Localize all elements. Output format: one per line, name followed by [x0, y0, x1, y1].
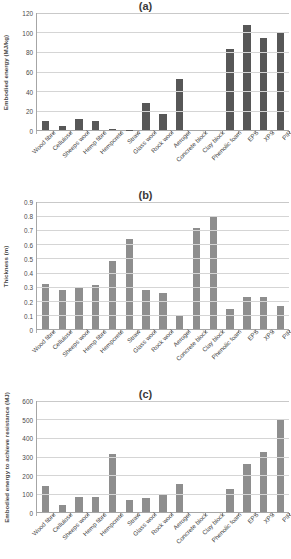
gridline [37, 401, 289, 402]
y-tick-label: 0 [29, 327, 33, 334]
bar-glass-wool[interactable] [142, 103, 149, 130]
bar-concrete-block[interactable] [193, 228, 200, 329]
bar-xps[interactable] [260, 297, 267, 329]
bar-rock-wool[interactable] [159, 495, 166, 512]
gridline [37, 419, 289, 420]
bar-hempcrete[interactable] [109, 261, 116, 329]
bar-hemp-fibre[interactable] [92, 497, 99, 512]
panel-c-yticks: 0100200300400500600 [13, 401, 35, 513]
bar-glass-wool[interactable] [142, 290, 149, 330]
panel-c-title: (c) [0, 388, 291, 401]
panel-a-plotarea [36, 13, 289, 131]
y-tick-label: 60 [26, 69, 33, 76]
panel-b-title: (b) [0, 189, 291, 202]
gridline [37, 202, 289, 203]
bar-sheeps-wool[interactable] [75, 119, 82, 130]
y-tick-label: 600 [22, 398, 33, 405]
y-tick-label: 80 [26, 49, 33, 56]
gridline [37, 52, 289, 53]
bar-pir[interactable] [277, 306, 284, 329]
y-tick-label: 0.4 [24, 270, 33, 277]
gridline [37, 438, 289, 439]
x-axis-label: PIR [280, 330, 291, 342]
bar-hemp-fibre[interactable] [92, 121, 99, 130]
bar-rock-wool[interactable] [159, 114, 166, 130]
bar-cell [54, 202, 71, 329]
bar-cell [121, 202, 138, 329]
y-tick-label: 200 [22, 472, 33, 479]
x-axis-label: EPS [245, 131, 259, 145]
bar-cell [87, 202, 104, 329]
y-tick-label: 400 [22, 435, 33, 442]
bar-cell [239, 202, 256, 329]
bar-aerogel[interactable] [176, 316, 183, 329]
bar-pir[interactable] [277, 32, 284, 130]
chart-panel-b: (b) Thickness (m) 00.10.20.30.40.50.60.7… [0, 189, 291, 388]
bar-phenolic-foam[interactable] [226, 309, 233, 329]
gridline [37, 91, 289, 92]
gridline [37, 301, 289, 302]
gridline [37, 216, 289, 217]
bar-phenolic-foam[interactable] [226, 49, 233, 130]
bar-wood-fibre[interactable] [42, 486, 49, 512]
bar-xps[interactable] [260, 452, 267, 512]
bar-cellulose[interactable] [59, 126, 66, 130]
bar-cell [171, 202, 188, 329]
bar-wood-fibre[interactable] [42, 121, 49, 130]
y-tick-label: 20 [26, 108, 33, 115]
bar-cell [104, 202, 121, 329]
panel-b-xlabels: Wood fibreCelluloseSheeps woolHemp fibre… [36, 330, 289, 388]
gridline [37, 230, 289, 231]
bar-eps[interactable] [243, 464, 250, 512]
bar-cell [205, 202, 222, 329]
y-tick-label: 100 [22, 491, 33, 498]
bar-cellulose[interactable] [59, 290, 66, 330]
panel-b-bars [37, 202, 289, 329]
gridline [37, 287, 289, 288]
x-axis-label: XPS [262, 513, 276, 527]
bar-glass-wool[interactable] [142, 498, 149, 512]
y-tick-label: 0.8 [24, 213, 33, 220]
y-tick-label: 0 [29, 510, 33, 517]
bar-pir[interactable] [277, 419, 284, 512]
bar-wood-fibre[interactable] [42, 284, 49, 329]
bar-phenolic-foam[interactable] [226, 489, 233, 512]
y-tick-label: 100 [22, 29, 33, 36]
bar-sheeps-wool[interactable] [75, 287, 82, 329]
gridline [37, 13, 289, 14]
bar-sheeps-wool[interactable] [75, 497, 82, 512]
gridline [37, 475, 289, 476]
gridline [37, 457, 289, 458]
y-tick-label: 0.3 [24, 284, 33, 291]
x-axis-label: PIR [280, 131, 291, 143]
bar-cell [71, 202, 88, 329]
panel-a-plot: Embodied energy (MJ/kg) 020406080100120 [0, 13, 291, 131]
panel-b-ylabel: Thickness (m) [0, 202, 13, 330]
bar-straw[interactable] [126, 500, 133, 512]
x-axis-label: EPS [245, 330, 259, 344]
bar-hempcrete[interactable] [109, 454, 116, 512]
bar-cell [255, 202, 272, 329]
y-tick-label: 120 [22, 10, 33, 17]
panel-b-yticks: 00.10.20.30.40.50.60.70.80.9 [13, 202, 35, 330]
bar-aerogel[interactable] [176, 484, 183, 512]
bar-eps[interactable] [243, 25, 250, 130]
x-axis-label: PIR [280, 513, 291, 525]
bar-hemp-fibre[interactable] [92, 285, 99, 329]
bar-aerogel[interactable] [176, 79, 183, 130]
bar-hempcrete[interactable] [109, 129, 116, 130]
gridline [37, 315, 289, 316]
bar-cell [138, 202, 155, 329]
panel-c-xlabels: Wood fibreCelluloseSheeps woolHemp fibre… [36, 513, 289, 559]
y-tick-label: 300 [22, 454, 33, 461]
gridline [37, 244, 289, 245]
panel-a-title: (a) [0, 0, 291, 13]
y-tick-label: 0.2 [24, 298, 33, 305]
bar-rock-wool[interactable] [159, 293, 166, 329]
y-tick-label: 0.1 [24, 312, 33, 319]
bar-cell [272, 202, 289, 329]
bar-cellulose[interactable] [59, 505, 66, 512]
panel-c-ylabel: Embodied energy to achieve resistance (M… [0, 401, 13, 513]
bar-cell [37, 202, 54, 329]
chart-panel-c: (c) Embodied energy to achieve resistanc… [0, 388, 291, 559]
